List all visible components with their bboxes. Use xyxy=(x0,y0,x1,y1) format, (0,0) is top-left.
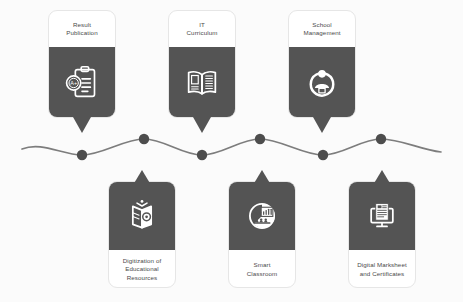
card-label-line: Management xyxy=(303,29,340,37)
grade-text: A+ xyxy=(70,80,77,86)
card-result-publication[interactable]: Result Publication A+ xyxy=(48,10,116,118)
card-label-line: Result xyxy=(73,21,91,29)
card-label-line: Digitization of xyxy=(123,257,162,265)
card-icon-area: A+ xyxy=(49,47,115,118)
card-label-line: Publication xyxy=(66,29,97,37)
timeline-node-dot xyxy=(139,134,149,144)
card-pointer xyxy=(373,170,391,185)
infographic-canvas: Result Publication A+ xyxy=(0,0,463,302)
card-it-curriculum[interactable]: IT Curriculum xyxy=(168,10,236,118)
timeline-node-dot xyxy=(376,134,386,144)
card-smart-classroom[interactable]: Smart Classroom xyxy=(228,170,296,290)
card-icon-area xyxy=(169,47,235,118)
card-pointer xyxy=(133,170,151,185)
smart-classroom-icon xyxy=(242,196,282,236)
open-book-icon xyxy=(182,63,222,103)
card-label: IT Curriculum xyxy=(169,11,235,47)
card-label-line: Smart xyxy=(253,261,270,269)
digital-book-icon xyxy=(122,196,162,236)
card-label-line: Digital Marksheet xyxy=(357,261,407,269)
card-icon-area xyxy=(109,182,175,250)
card-school-management[interactable]: School Management xyxy=(288,10,356,118)
monitor-document-icon xyxy=(362,196,402,236)
card-label-line: Resources xyxy=(127,274,157,282)
card-label-line: IT xyxy=(199,21,205,29)
card-pointer xyxy=(253,170,271,185)
timeline-node-dot xyxy=(255,134,265,144)
card-label: Result Publication xyxy=(49,11,115,47)
card-label: Smart Classroom xyxy=(229,250,295,288)
card-shell: Digitization of Educational Resources xyxy=(108,181,176,288)
card-label: Digitization of Educational Resources xyxy=(109,250,175,288)
person-circle-icon xyxy=(302,63,342,103)
wave-line xyxy=(22,139,441,155)
clipboard-grade-icon: A+ xyxy=(62,63,102,103)
card-pointer xyxy=(73,117,91,133)
card-shell: School Management xyxy=(288,10,356,118)
card-label: Digital Marksheet and Certificates xyxy=(349,250,415,288)
card-label-line: Educational xyxy=(125,265,158,273)
card-label-line: Classroom xyxy=(247,270,277,278)
card-digitization-educational-resources[interactable]: Digitization of Educational Resources xyxy=(108,170,176,290)
card-label-line: School xyxy=(312,21,332,29)
card-icon-area xyxy=(349,182,415,250)
card-icon-area xyxy=(229,182,295,250)
card-shell: Result Publication A+ xyxy=(48,10,116,118)
card-label-line: Curriculum xyxy=(187,29,218,37)
card-shell: Digital Marksheet and Certificates xyxy=(348,181,416,288)
timeline-node-dot xyxy=(77,150,87,160)
timeline-node-dot xyxy=(318,150,328,160)
card-digital-marksheet-certificates[interactable]: Digital Marksheet and Certificates xyxy=(348,170,416,290)
timeline-node-group xyxy=(77,134,386,160)
card-icon-area xyxy=(289,47,355,118)
card-pointer xyxy=(313,117,331,133)
card-shell: IT Curriculum xyxy=(168,10,236,118)
card-label-line: and Certificates xyxy=(360,270,405,278)
card-pointer xyxy=(193,117,211,133)
card-shell: Smart Classroom xyxy=(228,181,296,288)
card-label: School Management xyxy=(289,11,355,47)
timeline-node-dot xyxy=(197,150,207,160)
